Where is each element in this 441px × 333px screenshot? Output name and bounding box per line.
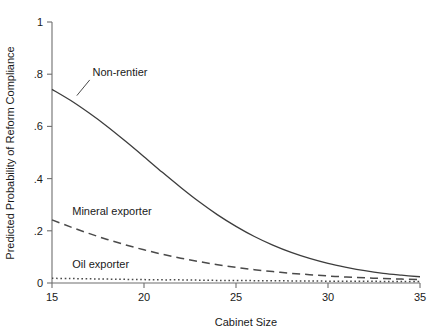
- x-axis-title: Cabinet Size: [215, 316, 277, 328]
- series-curve: [52, 278, 420, 281]
- x-tick-label: 25: [230, 291, 242, 303]
- x-tick-label: 20: [138, 291, 150, 303]
- y-tick-label: .6: [34, 120, 43, 132]
- series-curves: [52, 89, 420, 281]
- y-axis-title: Predicted Probability of Reform Complian…: [4, 46, 16, 259]
- series-annotations: Non-rentierMineral exporterOil exporter: [72, 66, 152, 271]
- chart-figure: 0.2.4.6.81 1520253035 Non-rentierMineral…: [0, 0, 441, 333]
- series-curve: [52, 89, 420, 276]
- series-label: Non-rentier: [92, 66, 147, 78]
- y-tick-label: 1: [37, 16, 43, 28]
- series-label: Mineral exporter: [72, 205, 152, 217]
- series-label: Oil exporter: [72, 258, 129, 270]
- non-rentier-leader-line: [77, 80, 90, 96]
- chart-plot-area: 0.2.4.6.81 1520253035 Non-rentierMineral…: [0, 0, 441, 333]
- x-tick-label: 30: [322, 291, 334, 303]
- x-axis: 1520253035: [46, 283, 426, 303]
- x-tick-label: 15: [46, 291, 58, 303]
- x-tick-label: 35: [414, 291, 426, 303]
- y-tick-label: .8: [34, 68, 43, 80]
- y-tick-label: .2: [34, 225, 43, 237]
- y-tick-label: 0: [37, 277, 43, 289]
- y-axis: 0.2.4.6.81: [34, 16, 52, 289]
- y-tick-label: .4: [34, 173, 43, 185]
